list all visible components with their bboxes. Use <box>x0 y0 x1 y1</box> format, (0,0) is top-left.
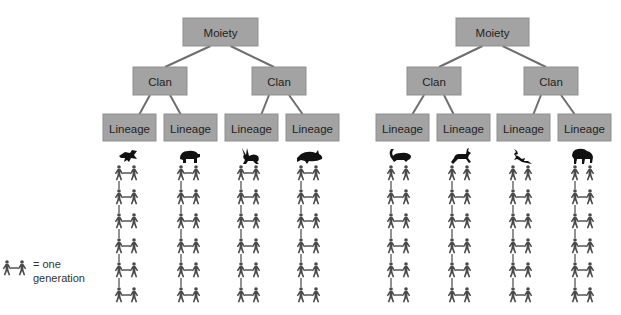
person-icon <box>448 238 456 253</box>
lineage-1-2: Lineage <box>164 114 217 141</box>
generation-row <box>237 165 260 180</box>
generation-row <box>237 287 260 302</box>
generation-row <box>115 238 138 253</box>
person-icon <box>252 189 260 204</box>
clan-2-2: Clan <box>524 67 578 95</box>
person-icon <box>312 287 320 302</box>
lineage-2-1-label: Lineage <box>382 123 423 135</box>
moiety-1: Moiety <box>183 18 258 46</box>
generation-row <box>115 165 138 180</box>
person-icon <box>312 262 320 277</box>
moiety-clan-edge <box>165 46 211 67</box>
person-icon <box>192 262 200 277</box>
generation-column <box>237 165 260 302</box>
generation-row <box>448 189 471 204</box>
person-icon <box>463 213 471 228</box>
generation-row <box>571 238 594 253</box>
person-icon <box>387 213 395 228</box>
clan-lineage-edge <box>534 95 542 114</box>
generation-row <box>297 213 320 228</box>
person-icon <box>115 238 123 253</box>
totem-icons <box>119 148 593 164</box>
person-icon <box>463 189 471 204</box>
person-icon <box>463 262 471 277</box>
person-icon <box>130 287 138 302</box>
generation-column <box>177 165 200 302</box>
lineage-2-2: Lineage <box>437 114 490 141</box>
legend-text-line2: generation <box>33 272 85 284</box>
bear-icon <box>180 151 200 163</box>
generation-row <box>177 287 200 302</box>
clan-lineage-edge <box>289 95 303 114</box>
person-icon <box>115 287 123 302</box>
person-icon <box>297 238 305 253</box>
person-icon <box>586 287 594 302</box>
lineage-2-3-label: Lineage <box>503 123 544 135</box>
person-icon <box>448 262 456 277</box>
lineage-2-2-label: Lineage <box>443 123 484 135</box>
lineage-1-3-label: Lineage <box>231 123 272 135</box>
person-icon <box>130 262 138 277</box>
generation-row <box>448 287 471 302</box>
person-icon <box>509 165 517 180</box>
person-icon <box>177 238 185 253</box>
generation-row <box>177 189 200 204</box>
generation-row <box>509 213 532 228</box>
legend-generation-icon <box>3 260 26 275</box>
generation-row <box>571 213 594 228</box>
clan-lineage-edge <box>413 95 425 114</box>
person-icon <box>312 213 320 228</box>
generation-row <box>509 189 532 204</box>
person-icon <box>237 189 245 204</box>
person-icon <box>18 260 26 275</box>
person-icon <box>586 213 594 228</box>
person-icon <box>448 189 456 204</box>
generation-row <box>237 213 260 228</box>
person-icon <box>509 262 517 277</box>
person-icon <box>130 213 138 228</box>
generation-row <box>297 262 320 277</box>
generation-row <box>177 165 200 180</box>
person-icon <box>509 213 517 228</box>
generation-row <box>571 262 594 277</box>
person-icon <box>130 165 138 180</box>
person-icon <box>463 238 471 253</box>
person-icon <box>524 287 532 302</box>
generation-row <box>237 189 260 204</box>
person-icon <box>3 260 11 275</box>
lineage-1-4: Lineage <box>286 114 339 141</box>
tree-nodes: MoietyClanLineageLineageClanLineageLinea… <box>103 18 611 141</box>
person-icon <box>402 262 410 277</box>
person-icon <box>448 165 456 180</box>
moiety-2-label: Moiety <box>476 27 510 39</box>
generation-column <box>115 165 138 302</box>
generation-row <box>387 262 410 277</box>
clan-1-1-label: Clan <box>148 76 172 88</box>
person-icon <box>463 287 471 302</box>
person-icon <box>252 165 260 180</box>
person-icon <box>297 189 305 204</box>
person-icon <box>192 213 200 228</box>
person-icon <box>387 262 395 277</box>
person-icon <box>177 262 185 277</box>
generation-row <box>115 287 138 302</box>
person-icon <box>524 165 532 180</box>
person-icon <box>192 165 200 180</box>
person-icon <box>571 165 579 180</box>
person-icon <box>586 189 594 204</box>
skunk-icon <box>390 149 411 162</box>
person-icon <box>571 262 579 277</box>
person-icon <box>448 213 456 228</box>
moiety-clan-edge <box>503 46 547 67</box>
generation-column <box>387 165 410 302</box>
person-icon <box>297 213 305 228</box>
generation-row <box>387 238 410 253</box>
person-icon <box>312 238 320 253</box>
person-icon <box>448 287 456 302</box>
person-icon <box>402 238 410 253</box>
person-icon <box>192 238 200 253</box>
person-icon <box>509 287 517 302</box>
generation-columns <box>115 165 594 302</box>
person-icon <box>252 287 260 302</box>
person-icon <box>237 238 245 253</box>
